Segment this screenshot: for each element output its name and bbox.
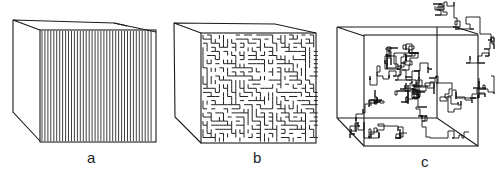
panel-c-cube xyxy=(337,2,494,146)
figure-canvas xyxy=(0,0,497,176)
side-face-edges xyxy=(174,23,201,143)
tortuous-channels xyxy=(203,35,318,142)
panel-label-c: c xyxy=(421,154,429,169)
panel-b-cube xyxy=(174,23,318,143)
top-face-edges xyxy=(174,23,316,33)
left-side-edges xyxy=(337,27,364,146)
panel-label-b: b xyxy=(253,150,261,165)
front-face xyxy=(201,33,316,143)
parallel-channels xyxy=(42,31,151,141)
panel-a-cube xyxy=(13,20,156,142)
front-face xyxy=(364,35,478,146)
top-gap xyxy=(114,23,127,26)
panel-label-a: a xyxy=(87,150,95,165)
side-face-edges xyxy=(13,20,40,141)
